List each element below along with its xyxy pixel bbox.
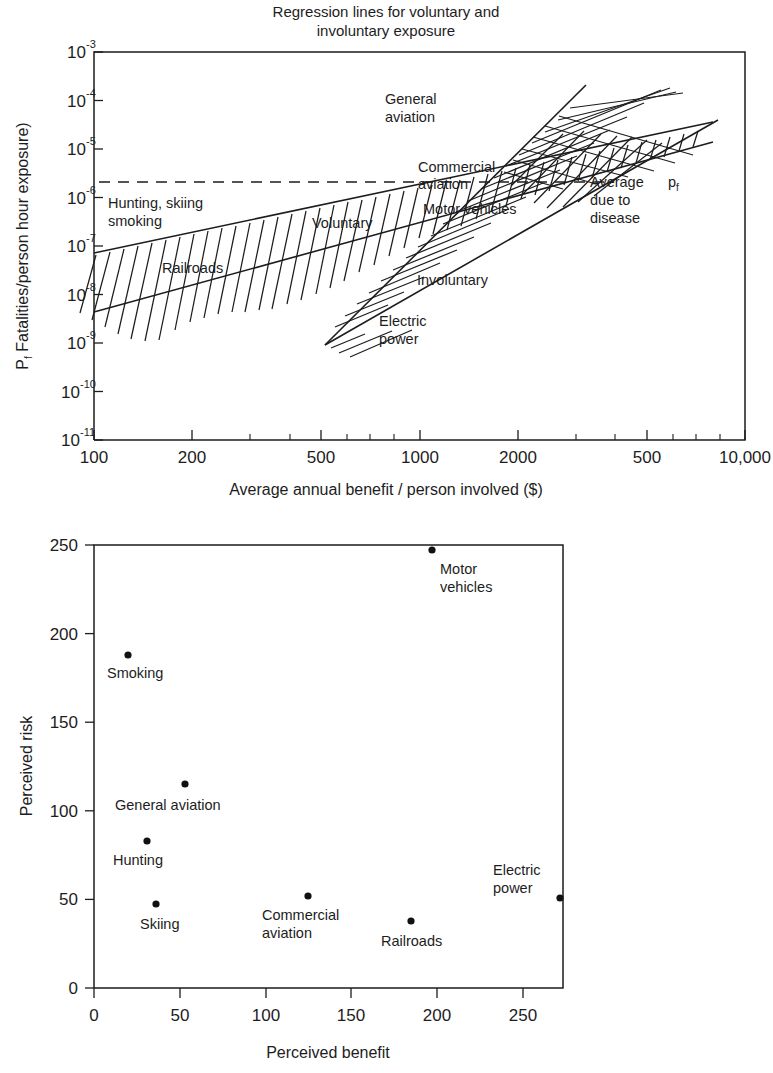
- y-tick-label: 10 -5: [67, 135, 96, 159]
- x-tick-label: 500: [307, 448, 335, 467]
- y-tick-label: 10 -6: [67, 184, 96, 208]
- pf-symbol-base: p: [668, 174, 676, 190]
- y-tick-label: 100: [50, 802, 78, 821]
- point-marker[interactable]: [304, 892, 311, 899]
- point-marker[interactable]: [143, 837, 150, 844]
- svg-text:Pf Fatalities/person hour expo: Pf Fatalities/person hour exposure): [14, 122, 34, 369]
- y-tick-mantissa: 10: [67, 43, 86, 62]
- y-tick-exponent: -3: [86, 38, 96, 50]
- y-tick-mantissa: 10: [61, 383, 80, 402]
- x-tick-label: 100: [80, 448, 108, 467]
- y-tick-label: 10 -4: [67, 87, 96, 111]
- annotation-electric-power-line2: power: [379, 331, 419, 347]
- perceived-risk-benefit-figure: 0 50 100 150 200 250 0 50 100 150 200 25…: [0, 510, 773, 1073]
- annotation-railroads: Railroads: [162, 260, 223, 276]
- point-label: General aviation: [115, 797, 221, 813]
- regression-lines-svg: Regression lines for voluntary and invol…: [0, 0, 773, 510]
- x-tick-label: 50: [171, 1006, 190, 1025]
- point-label-vehicles: vehicles: [440, 579, 492, 595]
- x-tick-label: 500: [633, 448, 661, 467]
- x-tick-label: 200: [423, 1006, 451, 1025]
- data-point-hunting[interactable]: Hunting: [113, 837, 163, 868]
- y-tick-mantissa: 10: [67, 140, 86, 159]
- x-tick-label: 250: [509, 1006, 537, 1025]
- perceived-risk-benefit-svg: 0 50 100 150 200 250 0 50 100 150 200 25…: [0, 510, 773, 1073]
- top-chart-y-tick-labels: 10 -3 10 -4 10 -5 10 -6 10 -7 10 -8 10 -…: [61, 38, 96, 450]
- bottom-chart-x-axis-label: Perceived benefit: [266, 1044, 390, 1061]
- point-marker[interactable]: [556, 894, 563, 901]
- annotation-general-aviation-line1: General: [385, 91, 437, 107]
- annotation-disease-line1: Average: [590, 174, 644, 190]
- annotation-hunting-skiing-smoking-line2: smoking: [108, 213, 162, 229]
- point-marker[interactable]: [428, 546, 435, 553]
- point-marker[interactable]: [407, 917, 414, 924]
- point-marker[interactable]: [152, 900, 159, 907]
- top-chart-title-line1: Regression lines for voluntary and: [273, 3, 500, 20]
- data-point-railroads[interactable]: Railroads: [381, 917, 442, 949]
- voluntary-band: [80, 122, 713, 341]
- top-chart-x-tick-labels: 100 200 500 1000 2000 500 10,000: [80, 448, 771, 467]
- bottom-chart-y-axis-label: Perceived risk: [18, 715, 35, 816]
- y-tick-mantissa: 10: [67, 237, 86, 256]
- y-tick-exponent: -5: [86, 135, 96, 147]
- y-tick-exponent: -9: [86, 329, 96, 341]
- bottom-chart-x-tick-labels: 0 50 100 150 200 250: [89, 1006, 537, 1025]
- point-label-line2: power: [493, 880, 533, 896]
- x-tick-label: 200: [178, 448, 206, 467]
- x-tick-label: 0: [89, 1006, 98, 1025]
- data-point-smoking[interactable]: Smoking: [107, 651, 163, 681]
- point-label: Railroads: [381, 933, 442, 949]
- scatter-points: Smoking General aviation Hunting Skiing …: [107, 546, 564, 949]
- y-tick-label: 10 -7: [67, 232, 96, 256]
- top-chart-title-line2: involuntary exposure: [317, 22, 455, 39]
- y-tick-mantissa: 10: [67, 189, 86, 208]
- data-point-commercial-aviation[interactable]: Commercial aviation: [262, 892, 339, 941]
- y-tick-label: 200: [50, 625, 78, 644]
- data-point-skiing[interactable]: Skiing: [140, 900, 180, 932]
- top-chart-x-axis-ticks: [94, 430, 745, 440]
- point-label: Smoking: [107, 665, 163, 681]
- bottom-chart-y-tick-labels: 0 50 100 150 200 250: [50, 536, 78, 998]
- y-tick-label: 10 -9: [67, 329, 96, 353]
- point-marker[interactable]: [124, 651, 131, 658]
- point-label: Commercial: [262, 907, 339, 923]
- data-point-electric-power[interactable]: Electric power: [493, 862, 564, 902]
- bottom-chart-y-axis-ticks: [85, 545, 94, 988]
- annotation-motor-vehicles: Motor vehicles: [423, 201, 516, 217]
- annotation-general-aviation-line2: aviation: [385, 109, 435, 125]
- annotation-electric-power-line1: Electric: [379, 313, 427, 329]
- y-tick-mantissa: 10: [61, 431, 80, 450]
- top-chart-x-axis-label: Average annual benefit / person involved…: [229, 481, 543, 498]
- y-tick-mantissa: 10: [67, 92, 86, 111]
- y-tick-exponent: -4: [86, 87, 96, 99]
- annotation-disease-line2: due to: [590, 192, 630, 208]
- x-tick-label: 150: [337, 1006, 365, 1025]
- y-tick-label: 10 -3: [67, 38, 96, 62]
- annotation-commercial-aviation-line1: Commercial: [418, 159, 495, 175]
- top-chart-y-axis-label: Pf Fatalities/person hour exposure): [14, 122, 34, 369]
- y-tick-exponent: -6: [86, 184, 96, 196]
- y-tick-exponent: -11: [80, 426, 95, 438]
- y-tick-label: 10 -8: [67, 281, 96, 305]
- point-label: Skiing: [140, 916, 180, 932]
- point-label-line2: aviation: [262, 925, 312, 941]
- annotation-involuntary: Involuntary: [417, 272, 489, 288]
- y-tick-label: 10 -10: [61, 378, 96, 402]
- x-tick-label: 2000: [499, 448, 537, 467]
- point-marker[interactable]: [181, 780, 188, 787]
- y-tick-label: 250: [50, 536, 78, 555]
- pf-symbol-sub: f: [676, 182, 679, 193]
- x-tick-label: 100: [252, 1006, 280, 1025]
- y-axis-label-rest: Fatalities/person hour exposure): [14, 122, 31, 356]
- data-point-motor-vehicles[interactable]: General Motor vehicles: [428, 546, 492, 595]
- x-tick-label: 1000: [401, 448, 439, 467]
- data-point-general-aviation[interactable]: General aviation: [115, 780, 221, 813]
- point-label: Hunting: [113, 852, 163, 868]
- y-axis-label-prefix: P: [14, 359, 31, 370]
- point-label-motor: Motor: [440, 561, 477, 577]
- point-label: Electric: [493, 862, 541, 878]
- annotation-hunting-skiing-smoking-line1: Hunting, skiing: [108, 195, 203, 211]
- y-tick-mantissa: 10: [67, 334, 86, 353]
- annotation-commercial-aviation-line2: aviation: [418, 176, 468, 192]
- annotation-voluntary: Voluntary: [312, 215, 373, 231]
